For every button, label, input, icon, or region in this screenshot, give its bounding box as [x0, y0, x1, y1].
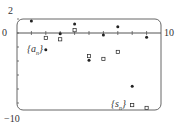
series-a-n-markers — [30, 20, 148, 88]
x-tick-label-10: 10 — [164, 28, 174, 38]
brace-right: } — [39, 43, 43, 54]
filled-dot-marker — [102, 34, 105, 37]
y-tick-label-minus-10: −10 — [4, 114, 20, 124]
filled-dot-marker — [131, 85, 134, 88]
filled-dot-marker — [145, 36, 148, 39]
series-label-a-n: {an} — [27, 44, 43, 56]
filled-dot-marker — [59, 32, 62, 35]
open-square-marker — [102, 57, 105, 60]
open-square-marker — [116, 50, 119, 53]
filled-dot-marker — [30, 20, 33, 23]
series-label-s-n: {sn} — [111, 99, 126, 111]
filled-dot-marker — [44, 48, 47, 51]
y-tick-label-2: 2 — [8, 6, 13, 16]
open-square-marker — [131, 104, 134, 107]
open-square-marker — [59, 38, 62, 41]
open-square-marker — [44, 36, 47, 39]
y-tick-label-0: 0 — [2, 28, 7, 38]
filled-dot-marker — [73, 22, 76, 25]
series-s-n-markers — [44, 29, 148, 110]
brace-right: } — [122, 98, 126, 109]
scatter-plot — [0, 0, 181, 134]
open-square-marker — [73, 29, 76, 32]
filled-dot-marker — [116, 25, 119, 28]
open-square-marker — [87, 55, 90, 58]
filled-dot-marker — [88, 59, 91, 62]
open-square-marker — [145, 106, 148, 109]
